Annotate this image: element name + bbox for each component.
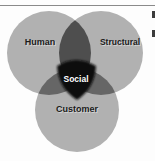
venn-label-structural: Structural	[94, 38, 146, 47]
page: Human Structural Customer Social	[0, 0, 155, 161]
venn-label-customer: Customer	[52, 105, 102, 114]
venn-label-human: Human	[21, 38, 59, 47]
venn-label-social: Social	[56, 75, 96, 84]
clipped-text-fragment	[152, 30, 155, 37]
clipped-text-fragment	[152, 11, 155, 18]
